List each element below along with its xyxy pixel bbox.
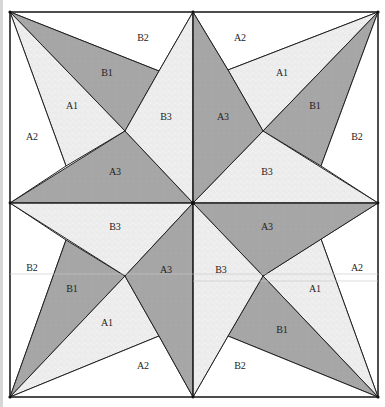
label-bl-a1: A1 xyxy=(101,317,113,328)
label-br-b1: B1 xyxy=(276,324,288,335)
label-br-a1: A1 xyxy=(309,283,321,294)
quilt-svg: B2 B1 A1 A2 A3 B3 A2 A1 B1 B2 A3 B3 xyxy=(0,0,385,407)
label-tl-a3: A3 xyxy=(109,166,121,177)
quadrant-top-left: B2 B1 A1 A2 A3 B3 xyxy=(10,12,193,203)
label-bl-b1: B1 xyxy=(66,283,78,294)
label-tr-a3: A3 xyxy=(217,111,229,122)
label-tl-b2: B2 xyxy=(137,32,149,43)
quilt-diagram: B2 B1 A1 A2 A3 B3 A2 A1 B1 B2 A3 B3 xyxy=(0,0,385,407)
label-bl-b2: B2 xyxy=(26,262,38,273)
label-tr-b1: B1 xyxy=(309,100,321,111)
label-tl-a2: A2 xyxy=(26,131,38,142)
quadrant-top-right: A2 A1 B1 B2 A3 B3 xyxy=(193,12,378,203)
label-bl-b3: B3 xyxy=(109,221,121,232)
label-tr-b3: B3 xyxy=(261,166,273,177)
label-tl-b1: B1 xyxy=(101,67,113,78)
label-br-a3: A3 xyxy=(261,221,273,232)
label-br-b2: B2 xyxy=(234,360,246,371)
label-br-a2: A2 xyxy=(351,262,363,273)
label-tl-a1: A1 xyxy=(66,100,78,111)
quadrant-bottom-right: A3 B3 A2 A1 B1 B2 xyxy=(193,203,378,397)
label-tr-a2: A2 xyxy=(234,32,246,43)
label-tl-b3: B3 xyxy=(160,111,172,122)
label-tr-b2: B2 xyxy=(351,131,363,142)
quadrant-bottom-left: B3 B2 B1 A3 A1 A2 xyxy=(10,203,193,397)
label-bl-a2: A2 xyxy=(137,360,149,371)
label-tr-a1: A1 xyxy=(276,67,288,78)
